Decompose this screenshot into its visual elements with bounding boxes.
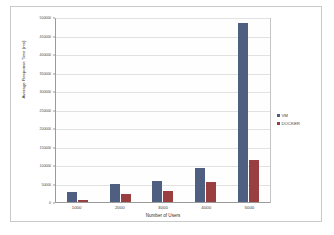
chart-legend: VMDOCKER — [277, 113, 321, 129]
y-axis-tick-label: 500000 — [40, 16, 51, 20]
y-axis-tick-label: 0 — [49, 201, 51, 205]
bar-vm-3000[interactable] — [152, 181, 162, 202]
square-marker-red-icon — [277, 122, 280, 125]
y-axis-tick-label: 450000 — [40, 35, 51, 39]
bar-vm-1000[interactable] — [67, 192, 77, 202]
x-axis-tick-label: 3000 — [141, 205, 184, 210]
bar-docker-5000[interactable] — [249, 160, 259, 202]
y-axis-tick-label: 200000 — [40, 127, 51, 131]
bar-vm-4000[interactable] — [195, 168, 205, 202]
bar-group — [67, 19, 88, 202]
y-axis-tick-label: 50000 — [42, 183, 52, 187]
y-axis-tick-label: 150000 — [40, 146, 51, 150]
bar-groups — [56, 19, 270, 202]
legend-item-vm[interactable]: VM — [277, 113, 321, 118]
x-axis-tick-label: 1000 — [55, 205, 98, 210]
bar-docker-4000[interactable] — [206, 182, 216, 202]
x-axis-tick-labels: 10002000300040005000 — [55, 205, 271, 210]
bar-docker-3000[interactable] — [163, 191, 173, 202]
bar-group — [152, 19, 173, 202]
legend-label: DOCKER — [282, 121, 300, 126]
square-marker-blue-icon — [277, 114, 280, 117]
x-axis-title: Number of Users — [55, 213, 271, 218]
y-axis-tick-label: 100000 — [40, 164, 51, 168]
x-axis-tick-label: 4000 — [185, 205, 228, 210]
bar-group — [110, 19, 131, 202]
x-axis-tick-label: 5000 — [228, 205, 271, 210]
bar-vm-2000[interactable] — [110, 184, 120, 203]
bar-vm-5000[interactable] — [238, 23, 248, 202]
y-axis-tick-labels: 0500001000001500002000002500003000003500… — [17, 18, 53, 203]
y-axis-tick-label: 250000 — [40, 109, 51, 113]
x-axis-tick-label: 2000 — [98, 205, 141, 210]
y-axis-tick-label: 300000 — [40, 90, 51, 94]
chart-container: Average Response Time (ms) 0500001000001… — [10, 6, 322, 222]
bar-group — [238, 19, 259, 202]
legend-item-docker[interactable]: DOCKER — [277, 121, 321, 126]
bar-docker-2000[interactable] — [121, 194, 131, 202]
y-axis-tick-label: 400000 — [40, 53, 51, 57]
y-axis-tick-label: 350000 — [40, 72, 51, 76]
bar-docker-1000[interactable] — [78, 200, 88, 202]
legend-label: VM — [282, 113, 288, 118]
bar-group — [195, 19, 216, 202]
plot-area — [55, 18, 271, 203]
